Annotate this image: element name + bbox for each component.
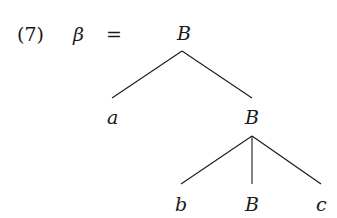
tree-leaf-b: b [175, 194, 187, 214]
tree-leaf-B: B [245, 194, 259, 214]
tree-node-b-inner: B [245, 107, 259, 127]
tree-edges [0, 0, 337, 218]
edge-root-to-a [112, 51, 182, 98]
edge-b-to-leaf-c [252, 136, 321, 184]
tree-node-a: a [107, 107, 118, 127]
tree-leaf-c: c [316, 194, 327, 214]
edge-b-to-leaf-b [181, 136, 252, 184]
edge-root-to-b [182, 51, 252, 98]
